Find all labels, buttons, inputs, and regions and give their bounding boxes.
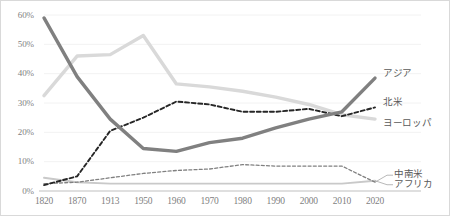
y-tick-label: 30%: [4, 98, 34, 108]
y-tick-label: 60%: [4, 10, 34, 20]
series-line-3: [44, 165, 375, 184]
series-label-アフリカ: アフリカ: [394, 178, 433, 189]
series-lines: [44, 18, 375, 185]
y-tick-label: 0%: [4, 186, 34, 196]
series-label-アジア: アジア: [383, 67, 412, 78]
x-tick-label: 2020: [356, 196, 394, 207]
y-tick-label: 40%: [4, 68, 34, 78]
y-tick-label: 50%: [4, 39, 34, 49]
series-label-ヨーロッパ: ヨーロッパ: [383, 117, 432, 128]
series-line-4: [44, 178, 375, 184]
label-leader-lines: [375, 175, 393, 185]
series-label-北米: 北米: [383, 96, 402, 107]
line-chart-plot: [1, 1, 451, 217]
chart-container: 0%10%20%30%40%50%60% 1820187019131950196…: [0, 0, 450, 216]
y-tick-label: 10%: [4, 156, 34, 166]
series-line-0: [44, 18, 375, 151]
leader-line: [375, 181, 387, 185]
series-line-1: [44, 36, 375, 120]
y-tick-label: 20%: [4, 127, 34, 137]
